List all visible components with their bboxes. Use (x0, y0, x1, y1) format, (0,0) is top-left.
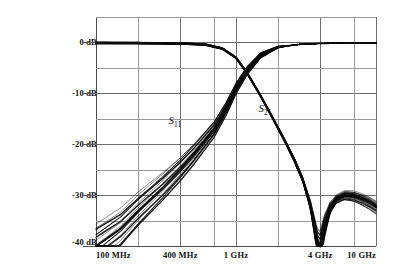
gridline-vertical-10000 (376, 17, 377, 246)
s11-curve-label: S11 (169, 114, 182, 129)
s21-curve-label-subscript: 21 (264, 108, 272, 117)
y-tick-mark-2 (83, 144, 95, 145)
trace-line (96, 43, 376, 238)
y-tick-mark-0 (83, 42, 95, 43)
trace-line (96, 43, 376, 246)
curve-layer (96, 17, 376, 248)
s11-curve-label-subscript: 11 (174, 121, 181, 130)
s21-curve-label: S21 (259, 102, 272, 117)
trace-line (96, 43, 376, 245)
trace-line (96, 43, 376, 224)
x-tick-label-0: 100 MHz (96, 250, 131, 260)
trace-line (96, 43, 376, 246)
y-tick-mark-1 (83, 93, 95, 94)
trace-line (96, 43, 376, 245)
x-tick-label-2: 1 GHz (224, 250, 248, 260)
trace-line (96, 43, 376, 246)
x-tick-label-1: 400 MHz (163, 250, 198, 260)
x-tick-label-3: 4 GHz (308, 250, 332, 260)
sparameter-chart-figure: 0 dB-10 dB-20 dB-30 dB-40 dB100 MHz400 M… (0, 0, 419, 276)
trace-line (96, 43, 376, 239)
x-tick-label-4: 10 GHz (347, 250, 376, 260)
y-tick-mark-3 (83, 195, 95, 196)
y-tick-mark-4 (83, 246, 95, 247)
plot-area (96, 17, 376, 246)
